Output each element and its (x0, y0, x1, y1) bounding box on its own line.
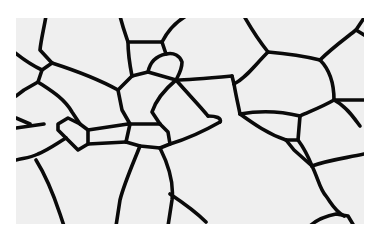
cell-network-drawing (0, 0, 381, 236)
